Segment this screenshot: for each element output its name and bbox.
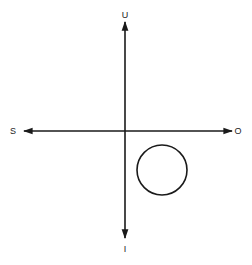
label-left: S xyxy=(10,126,16,136)
label-down: I xyxy=(124,244,127,254)
label-up: U xyxy=(122,10,129,20)
label-right: O xyxy=(234,126,241,136)
circle-shape xyxy=(137,145,187,195)
diagram-canvas: U I S O xyxy=(0,0,252,265)
